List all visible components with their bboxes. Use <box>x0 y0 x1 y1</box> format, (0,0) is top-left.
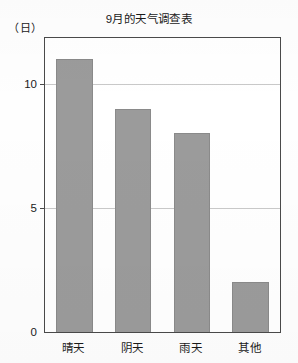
weather-survey-bar-chart: 9月的天气调查表 （日） 0510 晴天阴天雨天其他 <box>0 0 298 363</box>
y-tick-label: 10 <box>24 78 37 90</box>
y-tick-label: 0 <box>31 326 37 338</box>
bar <box>56 59 92 332</box>
x-tick-label: 雨天 <box>179 339 202 355</box>
y-tick-label: 5 <box>31 202 37 214</box>
x-tick-label: 其他 <box>238 339 261 355</box>
y-axis-unit-label: （日） <box>8 19 43 35</box>
x-axis-labels: 晴天阴天雨天其他 <box>44 339 281 361</box>
x-tick-label: 阴天 <box>121 339 144 355</box>
bar <box>232 282 268 332</box>
bars <box>45 38 280 332</box>
bar <box>115 109 151 332</box>
bar <box>174 133 210 332</box>
chart-title: 9月的天气调查表 <box>0 10 298 26</box>
plot-area: 0510 <box>44 37 281 333</box>
x-tick-label: 晴天 <box>62 339 85 355</box>
